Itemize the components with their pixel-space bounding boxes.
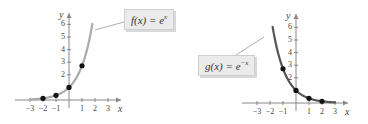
function-curve [273,27,335,103]
x-tick-label: −3 [253,108,262,116]
data-point [319,99,324,104]
label-leader-line [95,22,124,30]
y-tick-label: 4 [61,46,65,54]
x-axis-arrow-icon [116,98,121,103]
x-tick-label: −2 [39,105,48,113]
data-point [79,63,84,68]
y-axis-arrow-icon [294,14,299,19]
g-label-exponent: −x [241,59,249,67]
x-tick-label: −1 [52,105,61,113]
y-axis-arrow-icon [67,13,72,18]
y-tick-label: 2 [61,71,65,79]
y-tick-label: 3 [288,61,292,69]
data-point [280,66,285,71]
x-axis-label: x [118,104,122,114]
x-tick-label: 2 [320,108,324,116]
g-label-text: g(x) = e [205,60,241,72]
y-tick-label: 3 [61,58,65,66]
y-axis-label: y [59,10,63,20]
chart-f-exp: f(x) = ex −3−2−112323456xy [0,0,184,124]
y-tick-label: 6 [288,23,292,31]
x-axis-arrow-icon [343,101,348,106]
x-tick-label: −2 [266,108,275,116]
label-leader-line [236,37,264,55]
x-tick-label: 2 [93,105,97,113]
y-tick-label: 5 [288,36,292,44]
x-tick-label: 1 [80,105,84,113]
y-tick-label: 2 [288,74,292,82]
data-point [53,93,58,98]
f-label-exponent: x [164,13,167,21]
y-tick-label: 6 [61,20,65,28]
x-tick-label: 1 [307,108,311,116]
x-tick-label: 3 [106,105,110,113]
f-function-label: f(x) = ex [124,9,174,30]
x-tick-label: 3 [333,108,337,116]
data-point [306,96,311,101]
chart-g-exp: g(x) = e−x −3−2−112323456xy [184,0,368,124]
data-point [40,96,45,101]
data-point [66,85,71,90]
y-axis-label: y [286,11,290,21]
y-tick-label: 4 [288,49,292,57]
x-tick-label: −1 [279,108,288,116]
g-function-label: g(x) = e−x [198,55,255,76]
f-label-text: f(x) = e [131,14,164,26]
x-axis-label: x [345,107,349,117]
x-tick-label: −3 [26,105,35,113]
data-point [293,88,298,93]
y-tick-label: 5 [61,33,65,41]
